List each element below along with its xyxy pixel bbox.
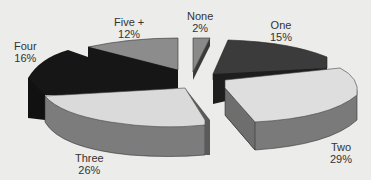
label-five-plus-name: Five + bbox=[114, 16, 144, 28]
label-two-name: Two bbox=[330, 141, 352, 153]
pie-chart bbox=[0, 0, 371, 180]
label-none-pct: 2% bbox=[187, 22, 213, 34]
label-four-name: Four bbox=[14, 40, 37, 52]
label-none-name: None bbox=[187, 10, 213, 22]
slice-none bbox=[193, 38, 210, 80]
label-one: One 15% bbox=[270, 19, 292, 43]
label-five-plus: Five + 12% bbox=[114, 16, 144, 40]
slice-two bbox=[225, 68, 357, 150]
label-four: Four 16% bbox=[14, 40, 37, 64]
label-five-plus-pct: 12% bbox=[114, 28, 144, 40]
label-two: Two 29% bbox=[330, 141, 352, 165]
label-one-pct: 15% bbox=[270, 31, 292, 43]
label-two-pct: 29% bbox=[330, 153, 352, 165]
label-three-pct: 26% bbox=[75, 164, 104, 176]
slice-three bbox=[45, 88, 210, 157]
label-three-name: Three bbox=[75, 152, 104, 164]
label-none: None 2% bbox=[187, 10, 213, 34]
label-one-name: One bbox=[270, 19, 292, 31]
label-four-pct: 16% bbox=[14, 52, 37, 64]
label-three: Three 26% bbox=[75, 152, 104, 176]
